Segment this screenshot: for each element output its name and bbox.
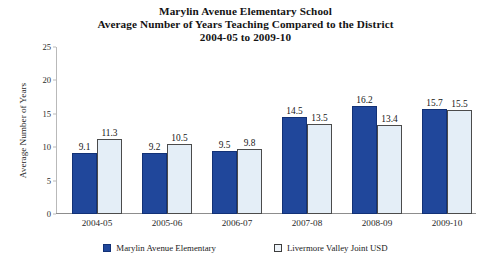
y-axis-title: Average Number of Years bbox=[18, 47, 32, 214]
legend-item[interactable]: Marylin Avenue Elementary bbox=[103, 243, 216, 253]
legend-swatch-icon bbox=[103, 244, 111, 252]
bar-value-label: 9.8 bbox=[244, 138, 256, 148]
bar-group: 9.111.32004-05 bbox=[72, 47, 122, 214]
bar-value-label: 16.2 bbox=[356, 95, 372, 105]
legend-label: Marylin Avenue Elementary bbox=[116, 243, 216, 253]
bar-marylin: 16.2 bbox=[352, 106, 377, 214]
bar-group: 9.210.52005-06 bbox=[142, 47, 192, 214]
legend-item[interactable]: Livermore Valley Joint USD bbox=[274, 243, 388, 253]
bar-district: 9.8 bbox=[237, 149, 262, 214]
y-axis-tick-label: 0 bbox=[47, 209, 51, 219]
bar-value-label: 15.5 bbox=[451, 99, 467, 109]
y-axis-tick-mark bbox=[53, 47, 56, 48]
plot-area: 05101520259.111.32004-059.210.52005-069.… bbox=[56, 47, 476, 214]
bar-value-label: 10.5 bbox=[171, 133, 187, 143]
bar-group: 16.213.42008-09 bbox=[352, 47, 402, 214]
bar-group: 15.715.52009-10 bbox=[422, 47, 472, 214]
bar-marylin: 9.5 bbox=[212, 151, 237, 214]
x-axis-tick-label: 2005-06 bbox=[142, 218, 192, 228]
chart-legend: Marylin Avenue ElementaryLivermore Valle… bbox=[0, 243, 491, 253]
x-axis-tick-label: 2006-07 bbox=[212, 218, 262, 228]
legend-swatch-icon bbox=[274, 244, 282, 252]
y-axis-tick-mark bbox=[53, 180, 56, 181]
y-axis-tick-mark bbox=[53, 80, 56, 81]
chart-title-line-1: Marylin Avenue Elementary School bbox=[0, 5, 491, 18]
chart-title-line-3: 2004-05 to 2009-10 bbox=[0, 31, 491, 44]
x-axis-tick-label: 2004-05 bbox=[72, 218, 122, 228]
bar-value-label: 9.1 bbox=[79, 142, 91, 152]
bar-district: 10.5 bbox=[167, 144, 192, 214]
bar-group: 14.513.52007-08 bbox=[282, 47, 332, 214]
bar-district: 13.4 bbox=[377, 125, 402, 215]
y-axis-tick-label: 25 bbox=[42, 42, 51, 52]
bar-chart: Marylin Avenue Elementary School Average… bbox=[0, 0, 491, 276]
bar-value-label: 15.7 bbox=[426, 98, 442, 108]
bar-value-label: 13.4 bbox=[381, 114, 397, 124]
y-axis-tick-label: 15 bbox=[42, 109, 51, 119]
y-axis-tick-mark bbox=[53, 147, 56, 148]
bar-district: 15.5 bbox=[447, 110, 472, 214]
x-axis-tick-label: 2007-08 bbox=[282, 218, 332, 228]
bar-value-label: 13.5 bbox=[311, 113, 327, 123]
y-axis-tick-label: 5 bbox=[47, 176, 51, 186]
chart-title: Marylin Avenue Elementary School Average… bbox=[0, 5, 491, 45]
bar-group: 9.59.82006-07 bbox=[212, 47, 262, 214]
x-axis-tick-label: 2009-10 bbox=[422, 218, 472, 228]
y-axis-tick-mark bbox=[53, 113, 56, 114]
bar-value-label: 14.5 bbox=[286, 106, 302, 116]
y-axis-tick-label: 20 bbox=[42, 75, 51, 85]
bar-marylin: 15.7 bbox=[422, 109, 447, 214]
chart-title-line-2: Average Number of Years Teaching Compare… bbox=[0, 18, 491, 31]
bar-district: 13.5 bbox=[307, 124, 332, 214]
bar-value-label: 9.2 bbox=[149, 142, 161, 152]
bar-marylin: 14.5 bbox=[282, 117, 307, 214]
legend-label: Livermore Valley Joint USD bbox=[287, 243, 388, 253]
y-axis-tick-label: 10 bbox=[42, 142, 51, 152]
bar-value-label: 11.3 bbox=[101, 128, 117, 138]
y-axis-line bbox=[56, 47, 57, 214]
bar-marylin: 9.1 bbox=[72, 153, 97, 214]
bar-district: 11.3 bbox=[97, 139, 122, 214]
bar-marylin: 9.2 bbox=[142, 153, 167, 214]
x-axis-tick-label: 2008-09 bbox=[352, 218, 402, 228]
y-axis-tick-mark bbox=[53, 214, 56, 215]
bar-value-label: 9.5 bbox=[219, 140, 231, 150]
